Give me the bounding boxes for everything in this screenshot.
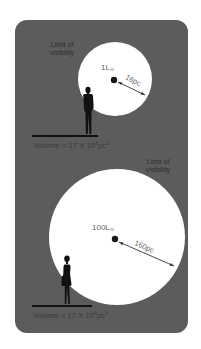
volume-label-bottom: Volume = 17 X 106pc3 [33, 310, 108, 320]
luminosity-label-bottom: 100L⊙ [92, 223, 114, 232]
limit-of-visibility-label-bottom: Limit of visibility [146, 158, 170, 174]
volume-text: Volume = 17 X 10 [33, 311, 94, 320]
volume-unit-exponent: 3 [105, 310, 108, 316]
sun-symbol-icon: ⊙ [110, 66, 114, 72]
volume-label-top: Volume = 17 X 103pc3 [34, 140, 109, 150]
sun-symbol-icon: ⊙ [110, 226, 114, 232]
star-icon-top [111, 77, 117, 83]
limit-label-line2: visibility [146, 166, 170, 174]
luminosity-label-top: 1L⊙ [101, 63, 114, 72]
ground-line-bottom [32, 305, 92, 307]
volume-unit: pc [97, 311, 105, 320]
limit-label-line1: Limit of [146, 158, 170, 166]
star-icon-bottom [112, 236, 118, 242]
limit-label-line2: visibility [50, 49, 74, 57]
limit-of-visibility-label-top: Limit of visibility [50, 41, 74, 57]
limit-label-line1: Limit of [50, 41, 74, 49]
luminosity-value: 100L [92, 223, 110, 232]
volume-unit: pc [98, 141, 106, 150]
volume-text: Volume = 17 X 10 [34, 141, 95, 150]
visibility-diagram [0, 0, 201, 349]
ground-line-top [32, 135, 98, 137]
volume-unit-exponent: 3 [106, 140, 109, 146]
luminosity-value: 1L [101, 63, 110, 72]
